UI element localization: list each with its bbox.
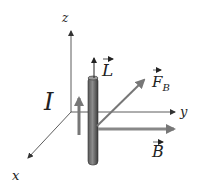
z-axis-label: z <box>61 11 69 25</box>
field-vector: B <box>98 129 174 161</box>
y-axis-label: y <box>179 104 188 119</box>
wire-rod <box>88 76 98 165</box>
force-on-wire-diagram: z y x I L FB B <box>0 0 198 190</box>
x-axis <box>28 112 71 158</box>
current-label: I <box>43 88 54 116</box>
current-vector: I <box>43 88 79 135</box>
length-label: L <box>101 60 113 80</box>
force-label: FB <box>151 73 170 93</box>
force-arrow <box>97 80 144 126</box>
x-axis-label: x <box>12 168 20 183</box>
field-label: B <box>151 142 164 161</box>
